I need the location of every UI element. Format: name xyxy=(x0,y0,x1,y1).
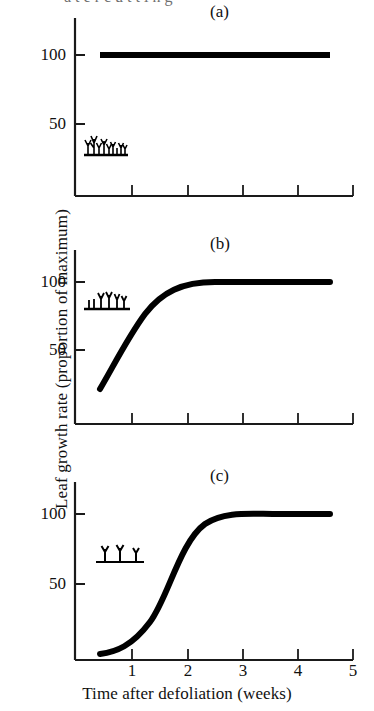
panel-tag-a: (a) xyxy=(210,2,229,22)
x-tick-label-1: 1 xyxy=(122,661,142,681)
sparse-tillers-icon xyxy=(96,545,144,562)
x-tick-label-3: 3 xyxy=(233,661,253,681)
dense-tillers-icon xyxy=(84,136,128,155)
figure-container: a t e r c u t t i n g xyxy=(0,0,374,711)
x-axis-title: Time after defoliation (weeks) xyxy=(0,684,374,704)
y-tick-label-50-c: 50 xyxy=(20,574,66,594)
medium-tillers-icon xyxy=(84,292,130,309)
curve-b xyxy=(100,282,330,389)
y-tick-label-50-a: 50 xyxy=(20,114,66,134)
curve-c xyxy=(100,514,330,654)
panel-tag-c: (c) xyxy=(210,466,229,486)
panel-tag-b: (b) xyxy=(210,234,230,254)
x-tick-label-4: 4 xyxy=(288,661,308,681)
y-axis-title: Leaf growth rate (proportion of maximum) xyxy=(52,149,72,569)
x-tick-label-2: 2 xyxy=(178,661,198,681)
x-tick-label-5: 5 xyxy=(343,661,363,681)
y-tick-label-100-a: 100 xyxy=(20,45,66,65)
